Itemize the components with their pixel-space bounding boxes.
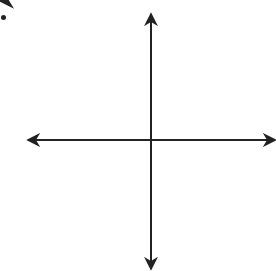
- coordinate-plane: [0, 0, 276, 271]
